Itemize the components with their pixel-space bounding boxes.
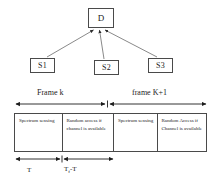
source-node-s2[interactable]: S2	[94, 60, 119, 75]
frame-cell-random-access-k: Random access if channel is available	[63, 114, 114, 151]
source-node-s3[interactable]: S3	[148, 58, 173, 73]
time-label-tf-subscript: f	[68, 169, 70, 174]
source-node-s1[interactable]: S1	[30, 58, 55, 73]
frame-cell-spectrum-sensing-k: Spectrum sensing	[15, 114, 63, 151]
frame-cell-random-access-k1: Random Access if Channel is available	[158, 114, 206, 151]
time-label-tf-minus-t: Tf-T	[64, 165, 77, 173]
frame-structure-table: Spectrum sensing Random access if channe…	[14, 113, 207, 152]
diagram-canvas: D S1 S2 S3 Frame k frame K+1 Spectrum se…	[0, 0, 219, 181]
frame-cell-spectrum-sensing-k1: Spectrum sensing	[114, 114, 158, 151]
frame-k-plus-1-label: frame K+1	[132, 88, 167, 97]
time-label-tf-suffix: -T	[70, 165, 77, 173]
time-label-t: T	[27, 166, 31, 174]
frame-k-label: Frame k	[37, 88, 63, 97]
destination-node[interactable]: D	[88, 8, 114, 28]
